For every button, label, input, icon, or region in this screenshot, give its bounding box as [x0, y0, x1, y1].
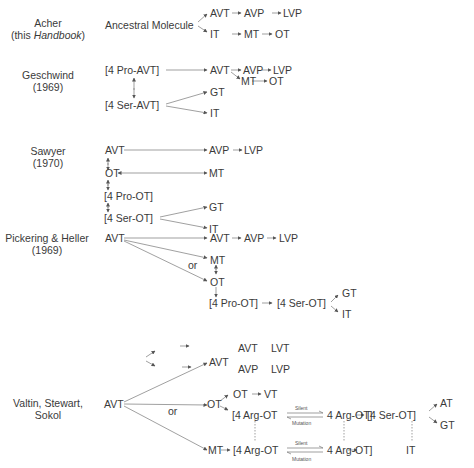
node-mt: MT [210, 254, 225, 266]
node-lvp: LVP [283, 7, 302, 19]
node-lvp: LVP [244, 144, 263, 156]
node-avp: AVP [209, 144, 229, 156]
author-valtin-stewart: Valtin, Stewart, [0, 397, 108, 409]
source-acher: (this Handbook) [0, 29, 108, 41]
node-4-arg-ot-b: 4 Arg-OT] [327, 409, 373, 421]
node-4-arg-ot-d: 4 Arg-OT] [327, 444, 373, 456]
node-avt-3: AVT [238, 342, 258, 354]
node-4-arg-ot-a: [4 Arg-OT [232, 409, 278, 421]
node-mt: MT [244, 28, 259, 40]
node-4-ser-ot: [4 Ser-OT] [367, 409, 416, 421]
node-4-ser-ot: [4 Ser-OT] [277, 297, 326, 309]
node-mt: MT [209, 167, 224, 179]
node-ot: OT [275, 28, 290, 40]
source-italic: Handbook [34, 29, 82, 41]
node-avt: AVT [105, 144, 125, 156]
node-avt: AVT [104, 398, 124, 410]
node-avt: AVT [210, 7, 230, 19]
node-it: IT [210, 107, 219, 119]
node-ot: OT [210, 276, 225, 288]
node-ot: OT [207, 398, 222, 410]
year-pickering-heller: (1969) [0, 244, 106, 256]
node-avt: AVT [105, 232, 125, 244]
node-ot: OT [105, 167, 120, 179]
node-avt-2: AVT [210, 232, 230, 244]
node-4-pro-ot: [4 Pro-OT] [104, 190, 153, 202]
node-it: IT [210, 28, 219, 40]
mutation-label: Mutation [292, 420, 311, 426]
year-sawyer: (1970) [0, 157, 108, 169]
node-it: IT [342, 308, 351, 320]
author-geschwind: Geschwind [0, 69, 108, 81]
node-4-ser-avt: [4 Ser-AVT] [105, 99, 159, 111]
node-avp: AVP [244, 7, 264, 19]
silent-label: Silent [295, 405, 308, 411]
node-avt: AVT [210, 64, 230, 76]
or-label: or [168, 405, 177, 417]
node-4-arg-ot-c: [4 Arg-OT [233, 444, 279, 456]
node-it: IT [406, 444, 415, 456]
source-text: (this [11, 29, 34, 41]
node-ot-2: OT [233, 388, 248, 400]
node-avp: AVP [238, 363, 258, 375]
year-geschwind: (1969) [0, 81, 108, 93]
node-4-pro-ot: [4 Pro-OT] [209, 297, 258, 309]
node-gt: GT [440, 419, 455, 431]
author-sawyer: Sawyer [0, 145, 108, 157]
node-ancestral-molecule: Ancestral Molecule [105, 19, 194, 31]
node-lvp: LVP [279, 232, 298, 244]
node-at: AT [440, 397, 453, 409]
node-avt-2: AVT [209, 356, 229, 368]
mutation-label-2: Mutation [292, 456, 311, 462]
author-acher: Acher [0, 17, 108, 29]
node-ot: OT [269, 75, 284, 87]
node-gt: GT [342, 287, 357, 299]
node-lvp: LVP [271, 363, 290, 375]
silent-label-2: Silent [295, 440, 308, 446]
node-4-pro-avt: [4 Pro-AVT] [105, 64, 159, 76]
node-4-ser-ot: [4 Ser-OT] [104, 212, 153, 224]
or-label: or [188, 259, 197, 271]
node-gt: GT [210, 86, 225, 98]
node-gt: GT [209, 201, 224, 213]
author-pickering-heller: Pickering & Heller [0, 232, 106, 244]
node-avp: AVP [244, 232, 264, 244]
node-vt: VT [264, 388, 277, 400]
node-mt: MT [241, 75, 256, 87]
author-sokol: Sokol [0, 409, 108, 421]
node-mt: MT [208, 444, 223, 456]
node-lvt: LVT [271, 342, 289, 354]
source-end: ) [82, 29, 86, 41]
